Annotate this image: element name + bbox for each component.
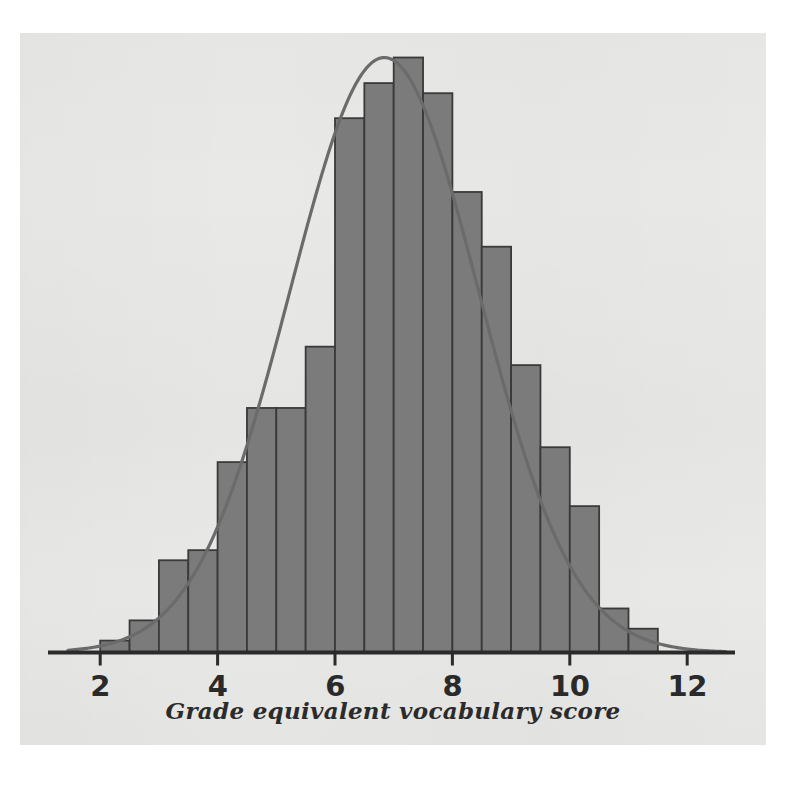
histogram-bar bbox=[276, 408, 305, 653]
histogram-bar bbox=[570, 506, 599, 652]
histogram-bar bbox=[452, 192, 481, 653]
histogram-bar bbox=[247, 408, 276, 653]
histogram-bar bbox=[188, 550, 217, 652]
histogram-bar bbox=[511, 365, 540, 652]
histogram-figure: 24681012 Grade equivalent vocabulary sco… bbox=[0, 0, 786, 785]
histogram-bar bbox=[364, 83, 393, 652]
histogram-bar bbox=[540, 447, 569, 652]
histogram-plot bbox=[0, 0, 786, 785]
histogram-bars bbox=[100, 58, 658, 653]
histogram-bar bbox=[306, 347, 335, 653]
histogram-bar bbox=[159, 560, 188, 652]
histogram-bar bbox=[482, 247, 511, 653]
x-axis-title: Grade equivalent vocabulary score bbox=[0, 697, 786, 724]
histogram-bar bbox=[394, 58, 423, 653]
histogram-bar bbox=[335, 118, 364, 652]
